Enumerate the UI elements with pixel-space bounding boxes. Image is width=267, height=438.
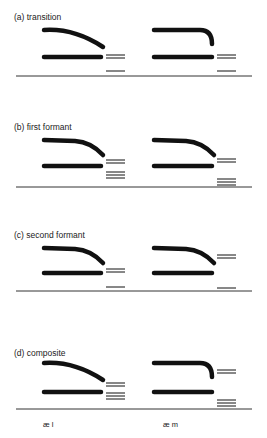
upper-formant-left-c xyxy=(44,248,103,263)
spectrogram-diagram xyxy=(0,0,267,438)
upper-formant-left-d xyxy=(44,363,103,380)
panel-label-b: (b) first formant xyxy=(14,122,72,132)
upper-formant-right-c xyxy=(154,248,214,263)
panel-label-a: (a) transition xyxy=(14,12,61,22)
upper-formant-right-a xyxy=(154,30,212,44)
segment-label-ae-m: æ m xyxy=(163,420,178,429)
panel-label-c: (c) second formant xyxy=(14,230,85,240)
upper-formant-right-b xyxy=(154,140,214,155)
upper-formant-left-b xyxy=(44,140,103,155)
segment-label-ae-l: æ l xyxy=(43,420,53,429)
upper-formant-left-a xyxy=(44,30,103,47)
upper-formant-right-d xyxy=(154,363,212,377)
panel-label-d: (d) composite xyxy=(14,348,66,358)
